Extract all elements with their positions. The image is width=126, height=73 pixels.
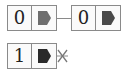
node-value: 0 xyxy=(8,6,32,30)
node-pointer xyxy=(32,6,56,30)
node-value: 1 xyxy=(8,44,32,68)
node-value: 0 xyxy=(72,6,96,30)
node-pointer xyxy=(96,6,120,30)
pointer-arrow-icon xyxy=(36,10,52,26)
list-node: 0 xyxy=(7,5,57,31)
link-connector xyxy=(57,18,71,19)
null-terminator-icon xyxy=(56,49,68,63)
pointer-arrow-icon xyxy=(36,48,52,64)
pointer-arrow-icon xyxy=(100,10,116,26)
node-pointer xyxy=(32,44,56,68)
list-node: 1 xyxy=(7,43,57,69)
list-node: 0 xyxy=(71,5,121,31)
